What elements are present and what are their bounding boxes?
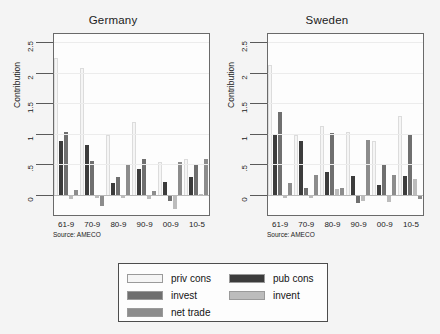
zero-line-sweden-0 [268,195,423,196]
panel-title-sweden: Sweden [220,14,434,26]
bar-sweden-90-9-net-trade [366,140,370,196]
zero-line-germany-0 [54,195,209,196]
bar-groups-germany [54,34,209,215]
bar-germany-80-9-net-trade [126,165,130,196]
bar-germany-61-9-invent [69,196,73,199]
bar-germany-90-9-pub-cons [137,169,141,196]
bar-sweden-00-9-priv-cons [372,141,376,196]
gridline-germany-2 [54,134,209,135]
bar-germany-61-9-pub-cons [59,141,63,196]
bar-sweden-10-5-priv-cons [398,116,402,195]
y-tick-sweden-5 [250,42,268,43]
y-tick-label-sweden-5: 2.5 [240,41,249,52]
legend-label-priv-cons: priv cons [171,273,211,284]
legend-swatch-invest [127,291,163,300]
bar-group-germany-80-9 [106,34,132,215]
legend-column-left: priv consinvestnet trade [127,270,211,321]
bar-germany-00-9-priv-cons [158,162,162,196]
y-tick-label-germany-3: 1.5 [26,102,35,113]
bar-sweden-80-9-pub-cons [325,172,329,195]
bar-group-sweden-61-9 [268,34,294,215]
gridline-sweden-5 [268,42,423,43]
panel-title-germany: Germany [6,14,220,26]
gridline-germany-1 [54,164,209,165]
x-tick-label-germany-2: 80-9 [105,220,131,232]
bar-group-germany-10-5 [183,34,209,215]
y-tick-germany-0 [36,195,54,196]
y-tick-label-sweden-1: .5 [240,165,249,172]
legend-column-right: pub consinvent [229,270,314,304]
bar-group-sweden-00-9 [371,34,397,215]
gridline-germany-3 [54,103,209,104]
x-tick-label-germany-3: 90-9 [132,220,158,232]
legend-item-invent[interactable]: invent [229,287,314,303]
bar-germany-00-9-pub-cons [163,182,167,195]
y-tick-label-germany-4: 2 [26,75,35,79]
bar-sweden-61-9-pub-cons [273,135,277,196]
x-tick-label-sweden-5: 10-5 [398,220,424,232]
bar-sweden-90-9-invent [361,196,365,201]
x-tick-label-sweden-4: 00-9 [372,220,398,232]
y-tick-label-sweden-0: 0 [240,197,249,201]
bar-germany-70-9-invent [95,196,99,198]
bar-germany-10-5-invest [194,165,198,196]
bar-germany-80-9-priv-cons [106,135,110,196]
bar-group-sweden-90-9 [345,34,371,215]
bar-group-germany-00-9 [157,34,183,215]
panel-germany: Germany Contribution 0.511.522.5 61-970-… [6,0,220,252]
y-tick-label-germany-1: .5 [26,165,35,172]
x-tick-label-sweden-2: 80-9 [319,220,345,232]
y-tick-label-sweden-3: 1.5 [240,102,249,113]
y-axis-sweden: 0.511.522.5 [250,33,268,216]
x-tick-label-germany-4: 00-9 [158,220,184,232]
bar-germany-00-9-invent [173,196,177,209]
y-tick-germany-3 [36,103,54,104]
bar-sweden-61-9-priv-cons [268,65,272,196]
x-tick-label-germany-5: 10-5 [184,220,210,232]
bar-germany-70-9-pub-cons [85,145,89,196]
y-tick-label-germany-2: 1 [26,136,35,140]
bar-group-sweden-10-5 [397,34,423,215]
bar-sweden-00-9-invent [387,196,391,202]
bar-germany-90-9-invent [147,196,151,199]
bar-germany-80-9-invent [121,196,125,198]
bar-sweden-10-5-invent [413,179,417,195]
x-tick-label-sweden-3: 90-9 [346,220,372,232]
chart-canvas: Germany Contribution 0.511.522.5 61-970-… [0,0,440,334]
bar-germany-80-9-invest [116,177,120,195]
bar-group-germany-90-9 [131,34,157,215]
bar-germany-70-9-priv-cons [80,68,84,196]
legend-label-net-trade: net trade [171,307,210,318]
plot-area-germany [53,33,210,216]
gridline-sweden-4 [268,73,423,74]
legend-item-pub-cons[interactable]: pub cons [229,270,314,286]
legend-item-priv-cons[interactable]: priv cons [127,270,211,286]
gridline-sweden-3 [268,103,423,104]
gridline-germany-5 [54,42,209,43]
legend-item-invest[interactable]: invest [127,287,211,303]
bar-sweden-00-9-net-trade [392,175,396,196]
bar-sweden-10-5-net-trade [418,196,422,199]
legend-swatch-priv-cons [127,274,163,283]
y-tick-sweden-0 [250,195,268,196]
plot-area-sweden [267,33,424,216]
bar-groups-sweden [268,34,423,215]
bar-sweden-70-9-priv-cons [294,135,298,196]
bar-sweden-61-9-invent [283,196,287,198]
chart-legend: priv consinvestnet trade pub consinvent [118,263,328,322]
panel-sweden: Sweden Contribution 0.511.522.5 61-970-9… [220,0,434,252]
y-axis-label-sweden: Contribution [226,30,236,140]
bar-sweden-61-9-invest [278,112,282,196]
bar-germany-70-9-net-trade [100,196,104,206]
legend-label-pub-cons: pub cons [273,273,314,284]
y-tick-label-sweden-4: 2 [240,75,249,79]
bar-sweden-80-9-priv-cons [320,126,324,196]
bar-sweden-70-9-pub-cons [299,141,303,196]
gridline-germany-4 [54,73,209,74]
y-tick-sweden-2 [250,134,268,135]
y-tick-sweden-4 [250,73,268,74]
gridline-sweden-2 [268,134,423,135]
bar-germany-00-9-invest [168,196,172,201]
legend-item-net-trade[interactable]: net trade [127,304,211,320]
y-tick-label-germany-5: 2.5 [26,41,35,52]
